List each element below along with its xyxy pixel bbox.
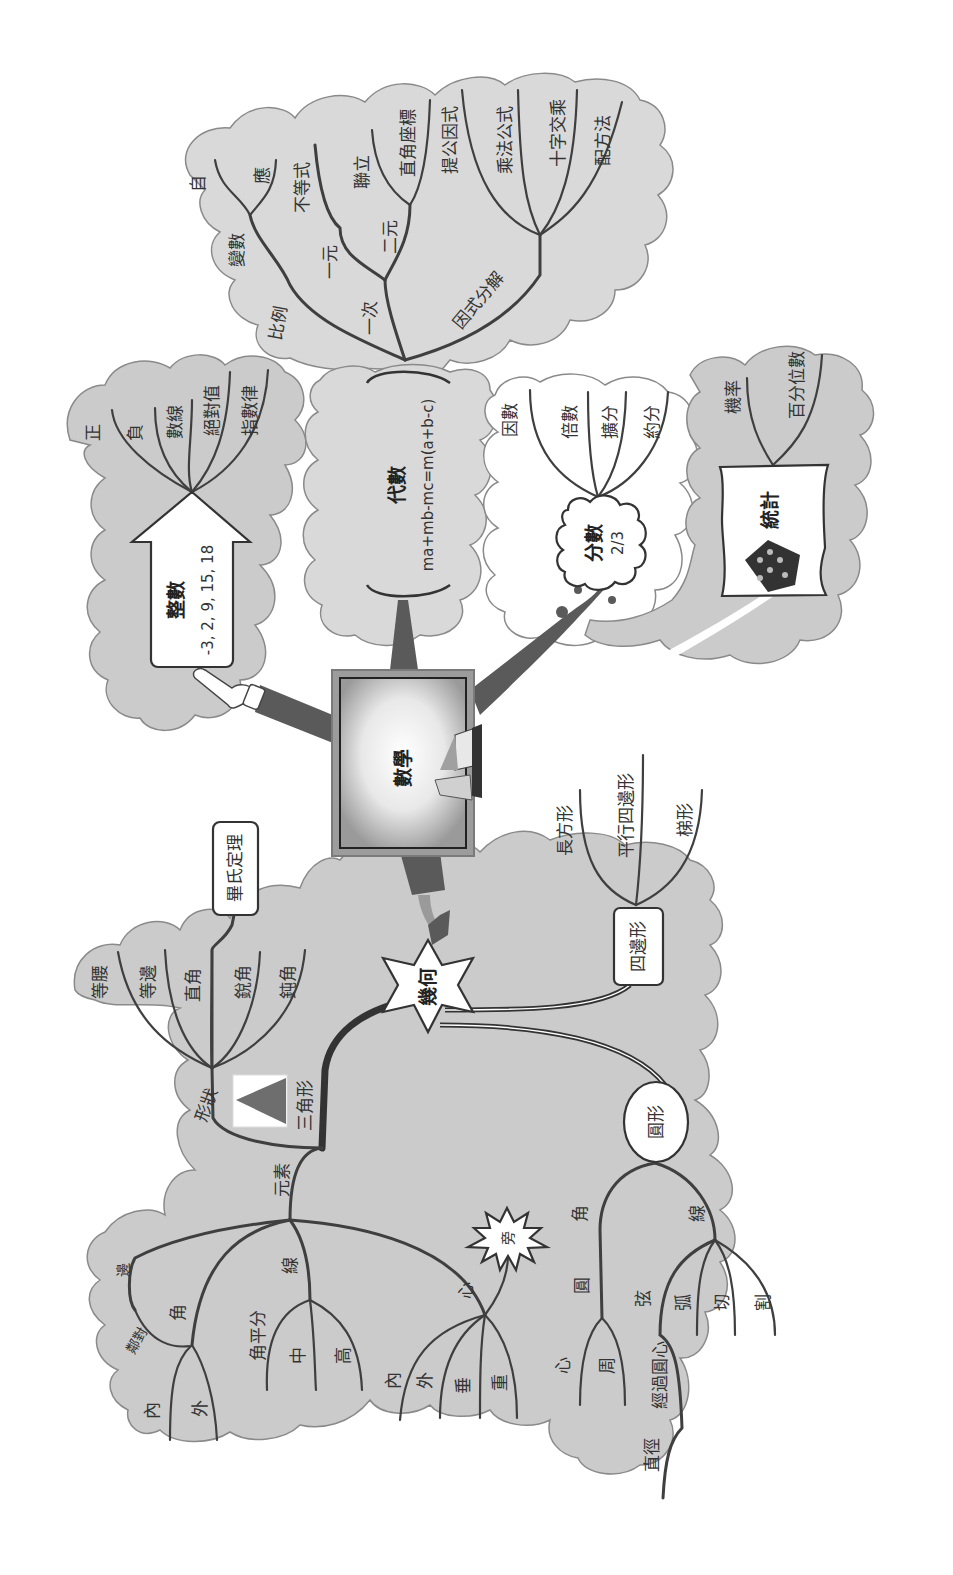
triangle-acute[interactable]: 銳角 bbox=[233, 965, 253, 999]
fractions-factor[interactable]: 因數 bbox=[500, 403, 520, 437]
geometry-label: 幾何 bbox=[417, 968, 439, 1006]
circle-diameter[interactable]: 直徑 bbox=[642, 1438, 662, 1472]
circle-chord[interactable]: 弦 bbox=[633, 1290, 653, 1307]
integers-example: -3, 2, 9, 15, 18 bbox=[199, 545, 217, 655]
splash-drop bbox=[556, 606, 568, 618]
integers-label: 整數 bbox=[165, 581, 187, 619]
triangle-isosceles[interactable]: 等腰 bbox=[90, 965, 110, 999]
integers-exponent-laws[interactable]: 指數律 bbox=[240, 385, 260, 436]
triangle-altitude[interactable]: 高 bbox=[333, 1347, 353, 1364]
integers-number-line[interactable]: 數線 bbox=[165, 405, 185, 439]
integers-positive[interactable]: 正 bbox=[83, 424, 103, 441]
algebra-coordinates[interactable]: 直角座標 bbox=[398, 109, 418, 177]
central-topic[interactable]: 數學 bbox=[332, 670, 482, 856]
triangle-icon bbox=[233, 1075, 287, 1127]
triangle-right[interactable]: 直角 bbox=[183, 968, 203, 1002]
circle-angle-circle[interactable]: 圓 bbox=[572, 1277, 592, 1294]
circle-secant[interactable]: 割 bbox=[753, 1294, 773, 1311]
algebra-label: 代數 bbox=[386, 466, 408, 505]
triangle-orthocenter[interactable]: 垂 bbox=[453, 1377, 473, 1394]
algebra-two-var[interactable]: 二元 bbox=[380, 220, 400, 254]
triangle-median[interactable]: 中 bbox=[288, 1347, 308, 1364]
circle-arc[interactable]: 弧 bbox=[673, 1294, 693, 1311]
quadrilateral-rectangle[interactable]: 長方形 bbox=[555, 805, 575, 856]
algebra-multiplication-formula[interactable]: 乘法公式 bbox=[495, 106, 515, 174]
circle-node[interactable]: 圓形 bbox=[624, 1082, 688, 1162]
circle-tangent[interactable]: 切 bbox=[712, 1294, 732, 1311]
algebra-one-var[interactable]: 一元 bbox=[320, 245, 340, 279]
splash-drop bbox=[608, 596, 616, 604]
pythagoras-label: 畢氏定理 bbox=[225, 834, 245, 902]
algebra-inequality[interactable]: 不等式 bbox=[292, 162, 312, 213]
triangle-circumcenter[interactable]: 外 bbox=[415, 1372, 435, 1389]
triangle-equilateral[interactable]: 等邊 bbox=[138, 965, 158, 999]
algebra-linear[interactable]: 一次 bbox=[360, 301, 380, 335]
excenter-label: 旁 bbox=[500, 1231, 516, 1245]
fractions-multiple[interactable]: 倍數 bbox=[560, 405, 580, 439]
algebra-variable[interactable]: 變數 bbox=[227, 233, 247, 267]
circle-label: 圓形 bbox=[646, 1105, 666, 1139]
triangle-angle-exterior[interactable]: 外 bbox=[190, 1400, 210, 1417]
triangle-elements[interactable]: 元素 bbox=[272, 1163, 292, 1197]
fractions-label: 分數 bbox=[583, 524, 605, 562]
triangle-centroid[interactable]: 重 bbox=[490, 1374, 510, 1391]
algebra-simultaneous[interactable]: 聯立 bbox=[352, 155, 372, 189]
quadrilateral-label: 四邊形 bbox=[628, 921, 648, 972]
circle-inscribed-angle[interactable]: 周 bbox=[597, 1357, 617, 1374]
integers-absolute-value[interactable]: 絕對值 bbox=[202, 385, 222, 436]
algebra-completing-square[interactable]: 配方法 bbox=[593, 115, 613, 166]
triangle-center[interactable]: 心 bbox=[456, 1282, 476, 1299]
circle-through-center[interactable]: 經過圓心 bbox=[650, 1341, 670, 1409]
triangle-label[interactable]: 三角形 bbox=[295, 1080, 315, 1131]
circle-line[interactable]: 線 bbox=[687, 1205, 707, 1222]
mind-map: 數學 代數 ma+mb-mc=m(a+b-c) 自 應 變數 比例 不等式 bbox=[0, 0, 953, 1575]
statistics-probability[interactable]: 機率 bbox=[723, 380, 743, 414]
arm-to-integers bbox=[255, 685, 340, 745]
statistics-label: 統計 bbox=[759, 491, 781, 529]
statistics-percentile[interactable]: 百分位數 bbox=[787, 351, 807, 419]
quadrilateral-trapezoid[interactable]: 梯形 bbox=[675, 803, 695, 837]
triangle-incenter[interactable]: 內 bbox=[383, 1372, 403, 1389]
algebra-formula: ma+mb-mc=m(a+b-c) bbox=[419, 399, 437, 572]
algebra-independent[interactable]: 自 bbox=[188, 175, 208, 192]
integers-negative[interactable]: 負 bbox=[125, 424, 145, 441]
algebra-common-factor[interactable]: 提公因式 bbox=[440, 106, 460, 174]
fractions-example: 2/3 bbox=[609, 531, 627, 555]
circle-central-angle[interactable]: 心 bbox=[553, 1357, 573, 1374]
algebra-cross-multiplication[interactable]: 十字交乘 bbox=[548, 99, 568, 167]
circle-angle[interactable]: 角 bbox=[570, 1205, 590, 1222]
triangle-line[interactable]: 線 bbox=[280, 1257, 300, 1274]
triangle-angle-interior[interactable]: 內 bbox=[142, 1402, 162, 1419]
triangle-angle-bisector[interactable]: 角平分 bbox=[248, 1310, 268, 1361]
triangle-obtuse[interactable]: 鈍角 bbox=[278, 965, 298, 999]
quadrilateral-parallelogram[interactable]: 平行四邊形 bbox=[616, 773, 636, 858]
central-topic-label: 數學 bbox=[392, 749, 414, 787]
triangle-angle[interactable]: 角 bbox=[168, 1304, 188, 1321]
fractions-expand[interactable]: 擴分 bbox=[600, 405, 620, 439]
triangle-side[interactable]: 邊 bbox=[115, 1263, 131, 1277]
fractions-simplify[interactable]: 約分 bbox=[642, 405, 662, 439]
algebra-dependent[interactable]: 應 bbox=[252, 167, 272, 184]
